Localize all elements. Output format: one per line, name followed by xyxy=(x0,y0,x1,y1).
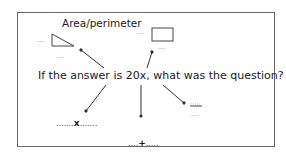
triangle-shape xyxy=(52,34,74,46)
rectangle-shape xyxy=(152,28,173,41)
arrow-to-rectangle xyxy=(147,52,152,68)
arrow-to-multiply xyxy=(86,85,106,111)
arrow-to-triangle xyxy=(81,50,104,68)
arrow-to-fraction xyxy=(163,85,184,103)
diagram-graphics xyxy=(0,0,286,168)
